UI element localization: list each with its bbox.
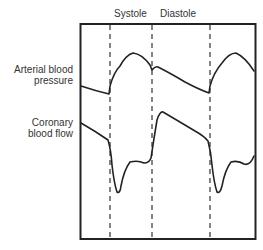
arterial-pressure-trace: [81, 53, 254, 94]
diagram-canvas: [0, 0, 263, 250]
coronary-flow-trace: [81, 112, 254, 192]
